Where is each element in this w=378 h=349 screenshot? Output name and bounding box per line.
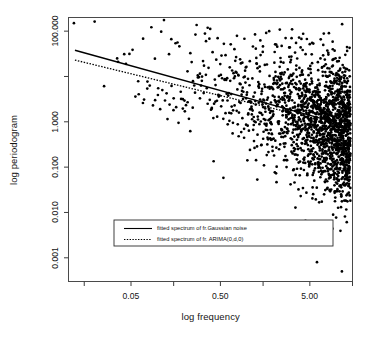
figure-container: log periodogram log frequency 0.050.505.… [0,0,378,349]
legend-border [114,220,333,246]
y-tick-label: 0.100 [50,156,60,178]
x-tick-label: 0.50 [212,291,229,301]
legend-label-arima: fitted spectrum of fr. ARIMA(0,d,0) [157,236,243,242]
legend-box [114,220,333,246]
y-tick-label: 0.010 [50,202,60,224]
y-tick-label: 100.000 [50,16,60,47]
fit-line-arima [75,60,293,113]
x-tick-label: 0.05 [123,291,140,301]
y-axis-title: log periodogram [8,114,19,184]
x-axis-ticks [84,282,352,287]
x-tick-label: 5.00 [301,291,318,301]
y-axis-ticks [64,31,69,258]
legend-label-gaussian-noise: fitted spectrum of fr.Gaussian noise [157,225,247,231]
x-axis-title: log frequency [182,311,240,322]
y-tick-label: 1.000 [50,111,60,133]
y-tick-label: 0.001 [50,247,60,269]
